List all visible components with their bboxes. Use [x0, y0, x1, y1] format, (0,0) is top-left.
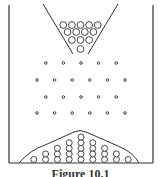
bin-ball [78, 140, 84, 146]
bin-ball [31, 157, 37, 163]
funnel-ball [81, 29, 88, 36]
peg [71, 112, 74, 115]
funnel-ball [77, 46, 84, 53]
peg [124, 112, 127, 115]
galton-board-diagram [0, 0, 161, 177]
funnel-balls [60, 22, 101, 53]
funnel-ball [77, 22, 84, 29]
peg [62, 96, 65, 99]
bin-ball [66, 151, 72, 157]
bin-ball [90, 140, 96, 146]
bin-ball [54, 145, 60, 151]
peg [80, 96, 83, 99]
peg [115, 96, 118, 99]
bin-ball [78, 145, 84, 151]
funnel-ball [86, 37, 93, 44]
bin-ball [125, 157, 131, 163]
funnel-ball [77, 37, 84, 44]
bin-balls [31, 134, 131, 162]
funnel-ball [64, 29, 71, 36]
peg [124, 79, 127, 82]
peg [89, 112, 92, 115]
bin-ball [113, 151, 119, 157]
peg [53, 79, 56, 82]
peg [53, 112, 56, 115]
bin-ball [78, 134, 84, 140]
bin-ball [90, 151, 96, 157]
peg [89, 79, 92, 82]
bin-ball [43, 151, 49, 157]
bin-ball [102, 145, 108, 151]
funnel-ball [90, 29, 97, 36]
funnel-ball [69, 37, 76, 44]
bin-ball [102, 151, 108, 157]
bin-ball [90, 157, 96, 163]
bin-ball [78, 151, 84, 157]
peg [106, 112, 109, 115]
bin-ball [113, 157, 119, 163]
peg [115, 62, 118, 65]
bin-ball [54, 157, 60, 163]
peg [106, 79, 109, 82]
peg [45, 62, 48, 65]
funnel-ball [86, 22, 93, 29]
bin-ball [78, 157, 84, 163]
bin-ball [66, 157, 72, 163]
funnel-ball [60, 22, 67, 29]
peg [45, 96, 48, 99]
bin-ball [102, 157, 108, 163]
funnel-ball [69, 22, 76, 29]
peg [62, 62, 65, 65]
peg [97, 96, 100, 99]
funnel [43, 4, 118, 54]
pegs [36, 62, 127, 115]
peg [36, 79, 39, 82]
peg [97, 62, 100, 65]
bin-ball [66, 145, 72, 151]
bin-ball [66, 140, 72, 146]
peg [80, 62, 83, 65]
bin-ball [43, 157, 49, 163]
peg [36, 112, 39, 115]
bin-ball [90, 145, 96, 151]
figure-caption: Figure 10.1 [0, 168, 161, 177]
funnel-ball [73, 29, 80, 36]
bin-ball [54, 151, 60, 157]
galton-board-figure: Figure 10.1 [0, 0, 161, 177]
funnel-ball [94, 22, 101, 29]
peg [71, 79, 74, 82]
